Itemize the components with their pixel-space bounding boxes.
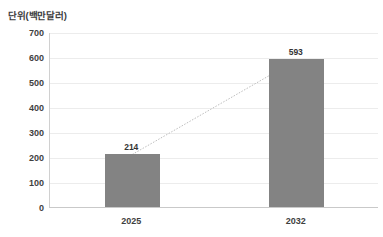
gridline bbox=[50, 33, 378, 34]
y-axis-tick-label: 700 bbox=[8, 28, 44, 38]
plot-area bbox=[49, 33, 378, 208]
bar-chart: 단위(백만달러) 7006005004003002001000 20252032… bbox=[0, 0, 383, 237]
bar-value-label-2032: 593 bbox=[289, 47, 303, 57]
gridline bbox=[50, 158, 378, 159]
gridline bbox=[50, 133, 378, 134]
gridline bbox=[50, 83, 378, 84]
y-axis-tick-label: 300 bbox=[8, 128, 44, 138]
bar-value-label-2025: 214 bbox=[124, 142, 138, 152]
bar-2032[interactable] bbox=[269, 59, 324, 207]
chart-unit-label: 단위(백만달러) bbox=[8, 8, 67, 22]
x-axis-tick-label-2025: 2025 bbox=[121, 216, 141, 226]
y-axis-tick-label: 200 bbox=[8, 153, 44, 163]
trend-connector-line bbox=[50, 33, 379, 208]
y-axis-tick-label: 100 bbox=[8, 178, 44, 188]
y-axis-tick-label: 500 bbox=[8, 78, 44, 88]
bar-2025[interactable] bbox=[105, 154, 160, 208]
gridline bbox=[50, 108, 378, 109]
y-axis-tick-label: 400 bbox=[8, 103, 44, 113]
gridline bbox=[50, 58, 378, 59]
y-axis-tick-label: 0 bbox=[8, 203, 44, 213]
x-axis-tick-label-2032: 2032 bbox=[286, 216, 306, 226]
gridline bbox=[50, 183, 378, 184]
y-axis-tick-label: 600 bbox=[8, 53, 44, 63]
